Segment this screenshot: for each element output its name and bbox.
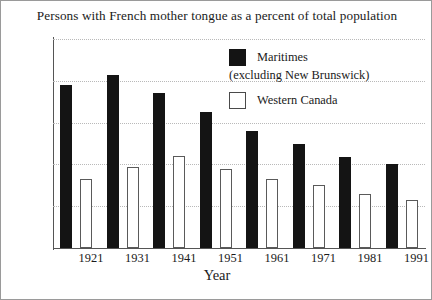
legend-swatch-dark (229, 49, 246, 66)
bar-maritimes (293, 144, 305, 249)
bar-western-canada (266, 179, 278, 248)
bar-group (153, 39, 187, 248)
x-axis-label: Year (1, 267, 432, 284)
bar-western-canada (127, 167, 139, 249)
bar-western-canada (80, 179, 92, 248)
legend-label: Maritimes(excluding New Brunswick) (229, 50, 369, 82)
legend-item: Western Canada (229, 90, 429, 108)
bar-maritimes (246, 131, 258, 248)
x-axis-tick-label: 1991 (387, 251, 432, 266)
bar-western-canada (173, 156, 185, 248)
bar-western-canada (406, 200, 418, 248)
bar-maritimes (339, 157, 351, 248)
legend-item: Maritimes(excluding New Brunswick) (229, 47, 429, 83)
bar-maritimes (107, 75, 119, 248)
bar-western-canada (359, 194, 371, 248)
bar-maritimes (386, 164, 398, 248)
bar-maritimes (200, 112, 212, 248)
page-title: Persons with French mother tongue as a p… (1, 8, 432, 24)
chart-legend: Maritimes(excluding New Brunswick)Wester… (229, 47, 429, 115)
bar-group (107, 39, 141, 248)
legend-label: Western Canada (257, 93, 338, 107)
bar-group (60, 39, 94, 248)
bar-maritimes (60, 85, 72, 248)
x-axis-line (53, 248, 426, 249)
bar-western-canada (313, 185, 325, 248)
bar-maritimes (153, 93, 165, 248)
legend-swatch-light (229, 92, 246, 109)
bar-western-canada (220, 169, 232, 248)
chart-figure: Persons with French mother tongue as a p… (0, 0, 432, 300)
